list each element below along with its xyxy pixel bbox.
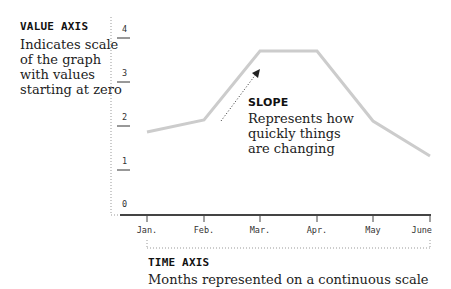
y-tick-label: 2 [122,112,127,122]
slope-arrow-head-icon [252,69,260,78]
slope-title: SLOPE [248,96,288,109]
y-tick-label: 3 [122,68,127,78]
time-axis-title: TIME AXIS [148,256,209,269]
x-tick-label: May [365,225,380,235]
x-ticks: Jan. Feb. Mar. Apr. May June [137,215,432,235]
line-chart: 4 3 2 1 0 Jan. Feb. Mar. Apr. May June [0,0,451,289]
slope-description: Represents how quickly things are changi… [248,111,354,156]
x-tick-label: Mar. [250,225,270,235]
time-axis-line: Months represented on a continuous scale [148,272,429,287]
y-tick-label: 1 [122,156,127,166]
time-axis-description: Months represented on a continuous scale [148,272,429,287]
x-tick-label: Jan. [137,225,157,235]
y-tick-label: 4 [122,24,127,34]
x-tick-label: June [412,225,432,235]
y-tick-label: 0 [122,199,127,209]
slope-line: quickly things [248,126,354,141]
x-tick-label: Apr. [307,225,327,235]
slope-line: are changing [248,141,354,156]
x-tick-label: Feb. [194,225,214,235]
y-ticks: 4 3 2 1 0 [117,24,130,209]
slope-line: Represents how [248,111,354,126]
time-axis-bracket [147,240,430,248]
